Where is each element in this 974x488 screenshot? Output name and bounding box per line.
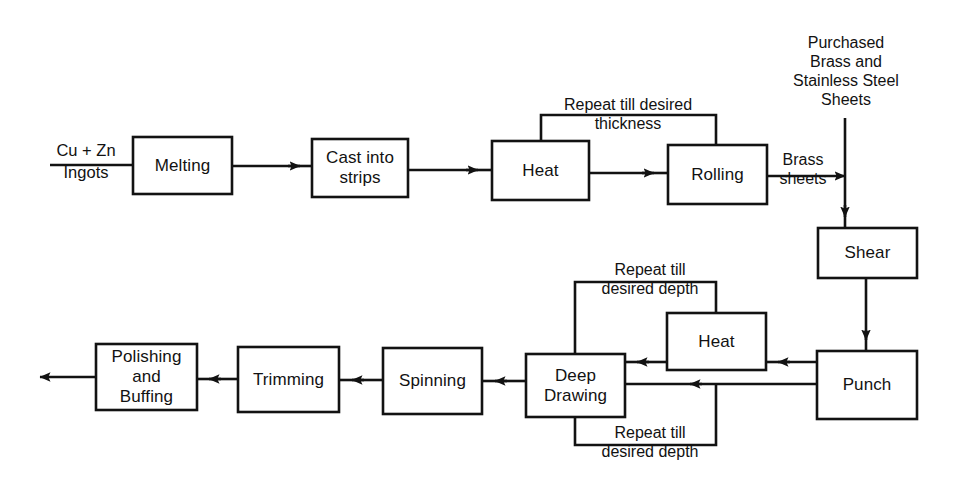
node-box-shear [818, 228, 917, 278]
edge-label-brass-sheets: Brass sheets [768, 150, 838, 188]
node-box-heat1 [492, 141, 589, 200]
edge-label-repeat-thickness: Repeat till desired thickness [528, 95, 728, 133]
edge-label-purchased-sheets: Purchased Brass and Stainless Steel Shee… [762, 33, 930, 109]
node-box-heat2 [667, 313, 766, 370]
node-box-deep [526, 354, 625, 417]
node-box-spinning [383, 348, 482, 414]
edge-label-repeat-depth-bottom: Repeat till desired depth [580, 423, 720, 461]
process-flow-diagram: Melting Cast into strips Heat Rolling Sh… [0, 0, 974, 488]
input-label-numerator: Cu + Zn [40, 141, 132, 160]
input-label-denominator: Ingots [40, 160, 132, 182]
node-box-punch [817, 351, 917, 419]
node-box-polishing [96, 344, 197, 410]
node-box-cast [312, 139, 408, 197]
node-box-trimming [238, 347, 339, 412]
node-box-rolling [668, 145, 767, 204]
input-label-ingots: Cu + Zn Ingots [40, 141, 132, 182]
node-box-melting [133, 137, 232, 194]
edge-label-repeat-depth-top: Repeat till desired depth [580, 260, 720, 298]
